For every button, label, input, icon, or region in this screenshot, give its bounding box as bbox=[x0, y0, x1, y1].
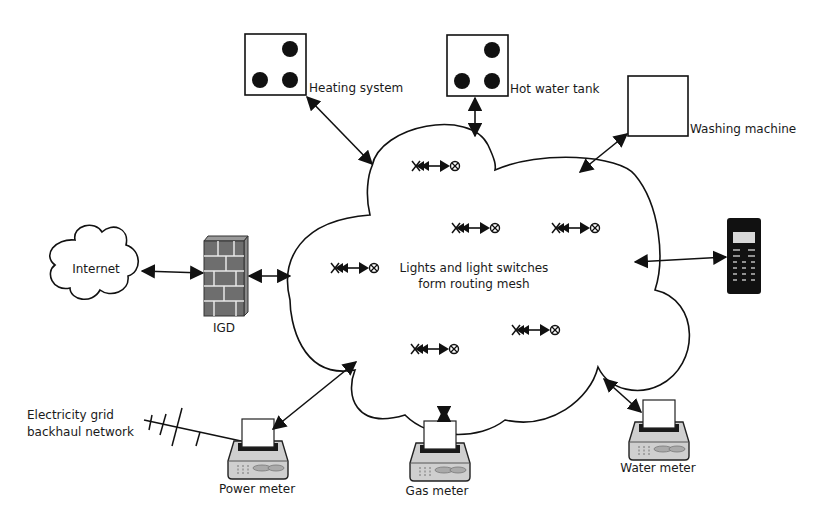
meter-device-icon bbox=[228, 419, 288, 479]
device-box-three-dots-icon bbox=[245, 34, 306, 95]
mesh-label-line1: Lights and light switches bbox=[400, 261, 549, 275]
mobile-phone-icon bbox=[727, 218, 761, 294]
switch-to-light-icon bbox=[331, 262, 379, 274]
power-meter-label: Power meter bbox=[219, 482, 295, 496]
gas-meter-label: Gas meter bbox=[406, 484, 469, 498]
hot-water-tank-device: Hot water tank bbox=[447, 35, 600, 96]
internet-node: Internet bbox=[50, 225, 138, 299]
meter-device-icon bbox=[410, 421, 470, 481]
home-network-diagram: Lights and light switches form routing m… bbox=[0, 0, 827, 520]
power-meter-link bbox=[273, 362, 356, 429]
antenna-icon bbox=[144, 408, 241, 446]
switch-to-light-icon bbox=[412, 160, 460, 172]
switch-to-light-icon bbox=[411, 343, 459, 355]
mobile-phone-node bbox=[727, 218, 761, 294]
water-meter-label: Water meter bbox=[620, 461, 695, 475]
internet-label: Internet bbox=[72, 262, 120, 276]
igd-node: IGD bbox=[204, 236, 248, 335]
washing-machine-label: Washing machine bbox=[690, 122, 796, 136]
grid-label-line1: Electricity grid bbox=[27, 408, 114, 422]
device-box-empty-icon bbox=[628, 76, 688, 136]
phone-link bbox=[635, 257, 726, 262]
switch-to-light-icon bbox=[552, 222, 600, 234]
heating-system-label: Heating system bbox=[309, 81, 403, 95]
switch-to-light-icon bbox=[512, 324, 560, 336]
heating-link bbox=[307, 97, 372, 164]
water-meter-link bbox=[604, 379, 641, 412]
brick-firewall-icon bbox=[204, 236, 248, 316]
grid-label-line2: backhaul network bbox=[27, 425, 134, 439]
internet-igd-link bbox=[142, 271, 203, 273]
device-box-three-dots-icon bbox=[447, 35, 508, 96]
switch-to-light-icon bbox=[452, 222, 500, 234]
washing-machine-device: Washing machine bbox=[628, 76, 796, 136]
mesh-label-line2: form routing mesh bbox=[418, 277, 529, 291]
hot-water-tank-label: Hot water tank bbox=[510, 82, 600, 96]
igd-label: IGD bbox=[213, 321, 235, 335]
heating-system-device: Heating system bbox=[245, 34, 403, 95]
washing-machine-link bbox=[580, 134, 627, 172]
